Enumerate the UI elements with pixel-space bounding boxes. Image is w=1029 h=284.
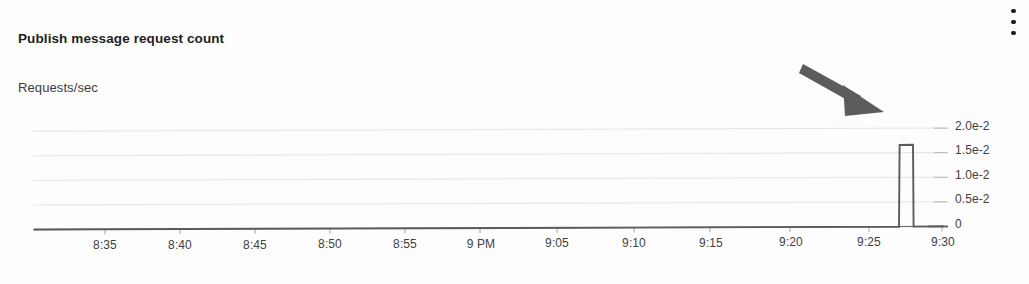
x-tick-label: 9:05 <box>545 236 569 250</box>
y-tick-label: 2.0e-2 <box>955 119 990 133</box>
chart-gridlines <box>33 128 945 205</box>
x-tick-label: 9:30 <box>931 235 955 249</box>
x-tick-label: 9:20 <box>779 235 803 249</box>
x-tick-label: 9:15 <box>699 236 723 250</box>
spike-callout-arrow <box>799 64 884 116</box>
x-tick-label: 8:40 <box>168 238 192 252</box>
data-series-line <box>34 145 944 230</box>
y-tick-label: 1.5e-2 <box>955 143 990 157</box>
y-tick-label: 0.5e-2 <box>955 192 990 206</box>
x-tick-label: 9 PM <box>467 237 495 251</box>
chart-plot-area: 8:35 8:40 8:45 8:50 8:55 9 PM 9:05 9:10 … <box>0 0 1029 284</box>
x-tick-label: 9:10 <box>622 236 646 250</box>
y-tick-label: 1.0e-2 <box>955 168 990 182</box>
x-tick-label: 9:25 <box>857 235 881 249</box>
x-tick-label: 8:45 <box>243 238 267 252</box>
x-tick-label: 8:35 <box>93 238 117 252</box>
x-tick-label: 8:50 <box>318 237 342 251</box>
y-tick-label: 0 <box>955 217 962 231</box>
x-tick-label: 8:55 <box>393 237 417 251</box>
